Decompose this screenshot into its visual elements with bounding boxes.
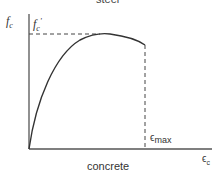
max-strain-label: ϵmax	[150, 132, 171, 143]
y-axis-label: fc	[6, 14, 13, 29]
stress-strain-curve	[29, 34, 145, 149]
peak-stress-label: fc'	[33, 17, 42, 32]
x-axis-label: ϵc	[202, 153, 210, 164]
concrete-caption: concrete	[87, 160, 129, 172]
